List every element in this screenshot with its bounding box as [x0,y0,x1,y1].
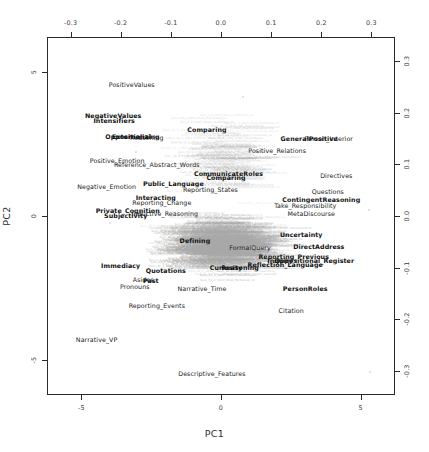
variable-label: Uncertainty [280,230,323,237]
variable-label: Citation [279,306,304,313]
variable-label: Defining [180,236,211,243]
variable-label: FormalQuery [229,243,271,250]
variable-label: Reporting_Events [129,301,185,308]
tick-label-top: 0.1 [266,19,277,27]
tick-mark-right [395,113,400,114]
variable-label: Reference_Abstract_Words [114,161,200,168]
variable-label: Immediacy [101,262,140,269]
tick-label-left: 5 [30,70,38,74]
tick-label-top: 0.2 [316,19,327,27]
tick-mark-bottom [81,395,82,400]
y-axis-title: PC2 [1,206,12,226]
tick-mark-right [395,319,400,320]
tick-label-left: 0 [30,214,38,218]
variable-label: Descriptive_Features [178,370,245,377]
tick-mark-bottom [221,395,222,400]
variable-label: Reasoning [221,263,259,270]
tick-label-right: -0.3 [403,364,411,377]
tick-mark-bottom [361,395,362,400]
tick-mark-top [171,32,172,37]
variable-label: MetaDiscourse [287,209,335,216]
tick-mark-right [395,164,400,165]
tick-label-right: 0.0 [403,211,411,222]
tick-label-top: -0.2 [114,19,127,27]
tick-mark-top [121,32,122,37]
tick-label-top: -0.3 [64,19,77,27]
tick-mark-right [395,268,400,269]
variable-label: Narrative_VP [76,335,118,342]
tick-label-right: -0.1 [403,261,411,274]
variable-label: Reasoning [130,134,163,141]
tick-label-left: -5 [30,356,38,363]
variable-label: Person_Interior [305,134,353,141]
variable-label: PositiveValues [109,80,155,87]
variable-label: Inductive_Reasoning [132,210,198,217]
variable-label: DirectAddress [293,242,344,249]
tick-mark-top [221,32,222,37]
variable-label: Reporting_Change [132,199,191,206]
tick-label-top: 0.3 [366,19,377,27]
tick-label-bottom: 0 [219,404,223,412]
variable-label: Quotations [146,266,186,273]
tick-label-right: 0.3 [403,56,411,67]
variable-label: Comparing [206,173,245,180]
variable-label: PersonRoles [283,285,328,292]
x-axis-title: PC1 [0,428,429,439]
tick-label-bottom: -5 [78,404,85,412]
variable-label: Take_Responsibility [274,201,336,208]
tick-mark-right [395,216,400,217]
tick-mark-top [371,32,372,37]
variable-label: Questions [312,187,344,194]
variable-label: Negative_Emotion [77,182,136,189]
tick-mark-right [395,371,400,372]
tick-mark-top [321,32,322,37]
tick-label-right: 0.2 [403,107,411,118]
tick-label-bottom: 5 [358,404,362,412]
tick-mark-left [42,360,47,361]
variable-label: Directives [320,172,352,179]
tick-label-right: -0.2 [403,313,411,326]
tick-mark-top [71,32,72,37]
variable-label: Intensifiers [93,117,134,124]
variable-label-layer: PositiveValuesNegativeValuesIntensifiers… [48,38,394,394]
tick-mark-right [395,61,400,62]
variable-label: Comparing [187,126,226,133]
pca-biplot: PC1 PC2 -0.3-0.2-0.10.00.10.20.3 -505 50… [0,0,429,452]
tick-mark-top [271,32,272,37]
variable-label: Positive_Relations [248,147,306,154]
tick-mark-left [42,72,47,73]
tick-label-top: 0.0 [216,19,227,27]
variable-label: Narrative_Time [177,285,226,292]
tick-label-right: 0.1 [403,159,411,170]
variable-label: Pronouns [120,282,150,289]
variable-label: Reporting_States [183,185,238,192]
tick-label-top: -0.1 [164,19,177,27]
tick-mark-left [42,216,47,217]
